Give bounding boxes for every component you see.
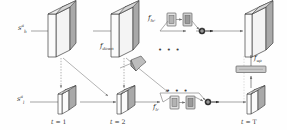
f-up-label: fup (254, 55, 262, 63)
lr-input-label: sal (17, 95, 24, 105)
hr-input-label: sah (18, 24, 27, 34)
hr-residual-blocks (167, 13, 192, 26)
diagram-vector-layer (0, 0, 287, 130)
time-step-label-1: t = 1 (51, 119, 67, 125)
hr-slab-T (245, 1, 273, 57)
lr-cube-2 (117, 86, 135, 115)
f-down-connections (61, 58, 168, 96)
figure-canvas: sah sal fdown fhr flr fup • • • • • • t … (0, 0, 287, 130)
f-down-label: fdown (100, 43, 114, 51)
lr-cube-1 (58, 86, 76, 115)
hr-branch-lines (160, 21, 199, 31)
sum-node-top (199, 28, 213, 34)
lr-residual-blocks (170, 96, 195, 109)
top-ellipsis: • • • (158, 47, 181, 54)
upsample-bar (236, 66, 266, 73)
f-hr-label: fhr (148, 15, 155, 23)
f-lr-label: flr (153, 104, 159, 112)
time-step-label-T: t = T (241, 119, 257, 125)
lr-cube-T (247, 86, 265, 115)
sum-node-bottom (205, 99, 219, 105)
bottom-ellipsis: • • • (166, 88, 189, 95)
hr-slab-1 (48, 1, 76, 57)
time-step-label-2: t = 2 (110, 119, 126, 125)
hr-slab-2 (111, 1, 139, 57)
